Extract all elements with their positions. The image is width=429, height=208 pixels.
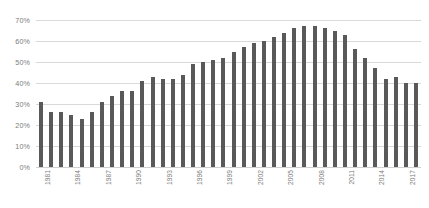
bar-slot (269, 20, 279, 167)
bar-slot (46, 20, 56, 167)
bar (151, 77, 155, 167)
bar (80, 119, 84, 167)
bar (394, 77, 398, 167)
bar (272, 37, 276, 167)
bar-slot (137, 20, 147, 167)
y-axis-tick-label: 60% (15, 37, 30, 46)
bar-slot (330, 20, 340, 167)
bar (373, 68, 377, 167)
bar-slot (147, 20, 157, 167)
bar (363, 58, 367, 167)
bar-slot (218, 20, 228, 167)
y-axis: 70%60%50%40%30%20%10%0% (0, 0, 34, 208)
bar (353, 49, 357, 167)
x-axis-tick-label: 2005 (287, 170, 294, 185)
bar-slot (66, 20, 76, 167)
bar-slot (239, 20, 249, 167)
bar (252, 43, 256, 167)
bar-slot (259, 20, 269, 167)
y-axis-tick-label: 10% (15, 142, 30, 151)
x-axis-tick-label: 2008 (318, 170, 325, 185)
bar-slot (198, 20, 208, 167)
bar (333, 31, 337, 168)
bar-slot (229, 20, 239, 167)
bar (39, 102, 43, 167)
bar-slot (249, 20, 259, 167)
bar-slot (77, 20, 87, 167)
bar-slot (350, 20, 360, 167)
bar-slot (401, 20, 411, 167)
bar (404, 83, 408, 167)
bar-slot (36, 20, 46, 167)
x-axis: 1981198419871990199319961999200220052008… (36, 168, 421, 208)
bar-slot (97, 20, 107, 167)
bar-slot (188, 20, 198, 167)
bar (313, 26, 317, 167)
bar (323, 28, 327, 167)
y-axis-tick-label: 0% (19, 163, 30, 172)
bar-slot (107, 20, 117, 167)
bar (49, 112, 53, 167)
x-axis-tick-label: 2017 (409, 170, 416, 185)
bar (69, 115, 73, 168)
bar-slot (310, 20, 320, 167)
y-axis-tick-label: 70% (15, 16, 30, 25)
bar-slot (117, 20, 127, 167)
bar (262, 41, 266, 167)
bar-slot (340, 20, 350, 167)
bar (384, 79, 388, 167)
bar (232, 52, 236, 168)
bar-slot (320, 20, 330, 167)
x-axis-tick-label: 2014 (378, 170, 385, 185)
bar (59, 112, 63, 167)
bar-slot (127, 20, 137, 167)
bar (292, 28, 296, 167)
bar (100, 102, 104, 167)
bar (211, 60, 215, 167)
x-axis-tick-label: 1981 (44, 170, 51, 185)
bar-slot (289, 20, 299, 167)
bar (130, 91, 134, 167)
bar-slot (168, 20, 178, 167)
x-axis-tick-label: 1984 (74, 170, 81, 185)
bar-slot (87, 20, 97, 167)
x-axis-tick-label: 2011 (348, 170, 355, 185)
bar (343, 35, 347, 167)
x-axis-tick-label: 1990 (135, 170, 142, 185)
y-axis-tick-label: 20% (15, 121, 30, 130)
y-axis-tick-label: 30% (15, 100, 30, 109)
bar-slot (391, 20, 401, 167)
bar-slot (158, 20, 168, 167)
bar (171, 79, 175, 167)
bar (161, 79, 165, 167)
x-axis-tick-label: 1987 (105, 170, 112, 185)
x-axis-tick-label: 1996 (196, 170, 203, 185)
bar-slot (370, 20, 380, 167)
bar-slot (360, 20, 370, 167)
bar-slot (299, 20, 309, 167)
bar-slot (411, 20, 421, 167)
bar (110, 96, 114, 167)
x-axis-tick-label: 1993 (166, 170, 173, 185)
bar-series (36, 20, 421, 167)
bar (191, 64, 195, 167)
y-axis-tick-label: 50% (15, 58, 30, 67)
bar-slot (279, 20, 289, 167)
bar-slot (178, 20, 188, 167)
x-axis-tick-label: 2002 (257, 170, 264, 185)
bar (302, 26, 306, 167)
bar (242, 47, 246, 167)
bar (90, 112, 94, 167)
bar (221, 58, 225, 167)
bar (282, 33, 286, 167)
bar (414, 83, 418, 167)
bar (140, 81, 144, 167)
bar (201, 62, 205, 167)
bar-slot (380, 20, 390, 167)
bar-chart: 70%60%50%40%30%20%10%0% 1981198419871990… (0, 0, 429, 208)
y-axis-tick-label: 40% (15, 79, 30, 88)
bar (120, 91, 124, 167)
bar-slot (56, 20, 66, 167)
bar (181, 75, 185, 167)
x-axis-tick-label: 1999 (226, 170, 233, 185)
